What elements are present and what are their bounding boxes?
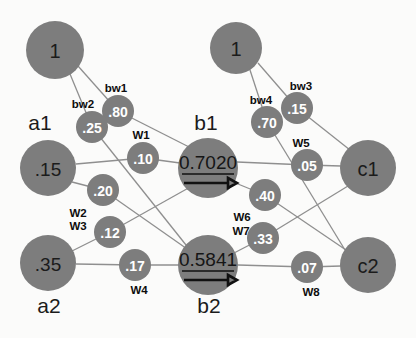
layer-label-a1: a1 <box>28 111 51 134</box>
weight-label-w5: W5 <box>292 137 310 149</box>
weight-node-w5[interactable]: .05W5 <box>291 137 323 181</box>
weight-label-w3: W3 <box>69 220 86 232</box>
layer-label-b1: b1 <box>194 111 217 134</box>
node-c1-label: c1 <box>357 158 378 180</box>
weight-node-w1[interactable]: .10W1 <box>127 129 159 174</box>
network-diagram-canvas: 1 1 .15 .35 0.7020 0.5841 <box>0 0 416 338</box>
weight-node-w2[interactable]: .20W2 <box>69 174 119 219</box>
weight-node-bw3[interactable]: .15bw3 <box>281 80 313 124</box>
weight-node-w6-value: .40 <box>255 188 275 204</box>
node-a1[interactable]: .15 <box>20 140 76 196</box>
layer-label-a2: a2 <box>37 294 60 317</box>
weight-label-bw3: bw3 <box>290 80 312 92</box>
weight-node-w1-value: .10 <box>133 151 153 167</box>
weight-node-w5-value: .05 <box>297 158 317 174</box>
weight-node-w3[interactable]: .12W3 <box>69 216 126 248</box>
weight-node-w3-value: .12 <box>100 225 120 241</box>
weight-node-w7-value: .33 <box>253 231 273 247</box>
weight-node-w7[interactable]: .33W7 <box>232 222 279 254</box>
weight-node-bw3-value: .15 <box>287 101 307 117</box>
weight-label-w4: W4 <box>130 284 148 296</box>
node-bias-right-label: 1 <box>230 38 241 60</box>
weight-node-bw4-value: .70 <box>257 115 277 131</box>
weight-node-w2-value: .20 <box>93 183 113 199</box>
node-c1[interactable]: c1 <box>340 140 396 196</box>
weight-node-w4-value: .17 <box>125 258 145 274</box>
weight-node-bw4[interactable]: .70bw4 <box>250 94 283 138</box>
node-b2[interactable]: 0.5841 <box>178 235 238 295</box>
weight-label-w7: W7 <box>232 225 249 237</box>
weight-label-w6: W6 <box>233 211 250 223</box>
weight-node-w8[interactable]: .07W8 <box>291 251 323 298</box>
node-bias-right[interactable]: 1 <box>210 22 262 74</box>
weight-node-w8-value: .07 <box>297 260 317 276</box>
node-a2[interactable]: .35 <box>20 235 76 291</box>
node-b1-value: 0.7020 <box>179 152 237 173</box>
weight-node-bw2-value: .25 <box>82 120 102 136</box>
weight-label-bw1: bw1 <box>105 82 128 94</box>
weight-label-bw2: bw2 <box>72 98 94 110</box>
weight-node-bw1[interactable]: .80bw1 <box>102 82 134 127</box>
weight-node-bw2[interactable]: .25bw2 <box>72 98 108 143</box>
weight-label-bw4: bw4 <box>250 94 273 106</box>
weight-node-bw1-value: .80 <box>108 104 128 120</box>
network-diagram-svg: 1 1 .15 .35 0.7020 0.5841 <box>0 0 416 338</box>
layer-label-b2: b2 <box>197 294 220 317</box>
weight-label-w1: W1 <box>132 129 150 141</box>
weight-node-w4[interactable]: .17W4 <box>119 249 151 296</box>
node-bias-left[interactable]: 1 <box>26 21 84 79</box>
node-c2-label: c2 <box>357 255 378 277</box>
node-a1-value: .15 <box>35 159 61 180</box>
node-c2[interactable]: c2 <box>340 237 396 293</box>
node-b2-value: 0.5841 <box>179 249 237 270</box>
node-bias-left-label: 1 <box>49 40 60 62</box>
weight-label-w2: W2 <box>69 207 86 219</box>
weight-label-w8: W8 <box>302 286 320 298</box>
node-b1[interactable]: 0.7020 <box>178 138 238 198</box>
node-a2-value: .35 <box>35 254 61 275</box>
